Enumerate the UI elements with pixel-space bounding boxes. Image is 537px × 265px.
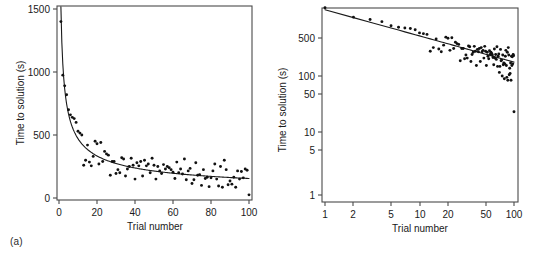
panel-b-ytick-500: 500 (298, 33, 315, 44)
data-point (109, 174, 112, 177)
panel-b-xtick-2: 2 (350, 209, 356, 220)
data-point (177, 171, 180, 174)
data-point (181, 173, 184, 176)
data-point (513, 110, 516, 113)
data-point (198, 173, 201, 176)
figure-learning-curves: Time to solution (s) 1500 1000 500 0 (0, 0, 537, 265)
data-point (512, 54, 515, 57)
data-point (88, 161, 91, 164)
data-point (369, 18, 372, 21)
data-point (493, 47, 496, 50)
data-point (437, 47, 440, 50)
data-point (211, 169, 214, 172)
data-point (122, 157, 125, 160)
data-point (505, 76, 508, 79)
data-point (97, 163, 100, 166)
data-point (324, 6, 327, 9)
data-point (501, 75, 504, 78)
data-point (221, 186, 224, 189)
data-point (107, 154, 110, 157)
data-point (162, 163, 165, 166)
data-point (149, 171, 152, 174)
data-point (468, 45, 471, 48)
data-point (397, 26, 400, 29)
data-point (232, 176, 235, 179)
data-point (462, 47, 465, 50)
data-point (426, 33, 429, 36)
data-point (185, 178, 188, 181)
data-point (246, 169, 249, 172)
data-point (92, 155, 95, 158)
data-point (63, 84, 66, 87)
data-point (75, 121, 78, 124)
data-point (82, 164, 85, 167)
data-point (230, 183, 233, 186)
data-point (164, 168, 167, 171)
data-point (422, 32, 425, 35)
panel-b-ytick-1: 1 (309, 190, 315, 201)
data-point (134, 178, 137, 181)
data-point (113, 160, 116, 163)
data-point (435, 37, 438, 40)
data-point (73, 117, 76, 120)
data-point (479, 60, 482, 63)
data-point (86, 144, 89, 147)
data-point (496, 45, 499, 48)
data-point (118, 171, 121, 174)
data-point (210, 176, 213, 179)
data-point (238, 178, 241, 181)
data-point (495, 58, 498, 61)
data-point (469, 60, 472, 63)
data-point (501, 54, 504, 57)
data-point (147, 163, 150, 166)
panel-b-xtick-50: 50 (480, 209, 492, 220)
panel-a-xtick-80: 80 (205, 207, 217, 218)
data-point (90, 164, 93, 167)
data-point (498, 65, 501, 68)
data-point (84, 159, 87, 162)
panel-b-ytick-50: 50 (304, 89, 316, 100)
data-point (215, 178, 218, 181)
data-point (187, 169, 190, 172)
data-point (510, 79, 513, 82)
data-point (154, 178, 157, 181)
panel-b-ytick-5: 5 (309, 145, 315, 156)
panel-a-fit-line (61, 7, 249, 179)
data-point (447, 37, 450, 40)
data-point (132, 164, 135, 167)
data-point (240, 170, 243, 173)
data-point (116, 168, 119, 171)
panel-a-tag: (a) (10, 236, 23, 247)
data-point (141, 175, 144, 178)
data-point (103, 150, 106, 153)
data-point (101, 160, 104, 163)
data-point (139, 160, 142, 163)
data-point (202, 168, 205, 171)
panel-a-scatter-points (59, 20, 250, 196)
data-point (498, 71, 501, 74)
panel-a-ytick-1500: 1500 (28, 4, 51, 15)
data-point (464, 54, 467, 57)
data-point (67, 108, 70, 111)
data-point (183, 157, 186, 160)
data-point (508, 67, 511, 70)
panel-b-xtick-5: 5 (388, 209, 394, 220)
data-point (477, 50, 480, 53)
panel-b-scatter-points (324, 6, 516, 113)
data-point (217, 185, 220, 188)
data-point (242, 176, 245, 179)
data-point (225, 168, 228, 171)
data-point (227, 183, 230, 186)
data-point (507, 54, 510, 57)
data-point (208, 185, 211, 188)
data-point (96, 142, 99, 145)
data-point (189, 167, 192, 170)
data-point (509, 72, 512, 75)
data-point (206, 176, 209, 179)
data-point (503, 77, 506, 80)
panel-a-x-tickmarks (59, 200, 249, 204)
data-point (483, 45, 486, 48)
data-point (507, 46, 510, 49)
data-point (504, 55, 507, 58)
data-point (236, 169, 239, 172)
